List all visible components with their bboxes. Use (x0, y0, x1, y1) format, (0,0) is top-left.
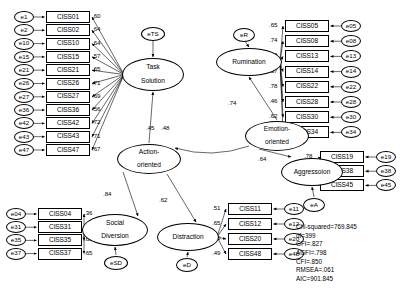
disturbance-arrow-eA (312, 187, 314, 197)
loading-CISS08: .74 (269, 36, 277, 43)
observed-CISS14: CISS14 (285, 66, 329, 78)
fit-stat-line-1: df=399 (296, 232, 357, 241)
loading-CISS26: .71 (92, 79, 100, 86)
observed-CISS11: CISS11 (228, 203, 272, 215)
observed-CISS21: CISS21 (46, 64, 90, 76)
error-e11: e11 (284, 203, 304, 215)
loading-CISS42: .72 (92, 118, 100, 125)
disturbance-eA: eA (303, 198, 325, 212)
error-e28: e28 (341, 96, 361, 108)
latent-aggression: Aggressoion (281, 158, 343, 186)
observed-CISS22: CISS22 (285, 81, 329, 93)
sem-path-diagram: CISS01e1.60CISS02e2.64CISS10e10.64CISS15… (0, 0, 415, 291)
error-e1: e1 (14, 11, 34, 23)
error-e10: e10 (14, 38, 34, 50)
disturbance-eR: eR (233, 28, 255, 42)
observed-CISS28: CISS28 (285, 96, 329, 108)
observed-CISS47: CISS47 (46, 144, 90, 156)
observed-CISS43: CISS43 (46, 131, 90, 143)
loading-CISS47: .67 (92, 145, 100, 152)
path-label-emotion-to-aggression: .64 (258, 155, 266, 162)
loading-CISS10: .64 (92, 39, 100, 46)
loading-CISS15: .57 (92, 52, 100, 59)
error-e14: e14 (341, 66, 361, 78)
error-e19: e19 (376, 151, 396, 163)
observed-CISS12: CISS12 (228, 218, 272, 230)
error-e26: e26 (14, 78, 34, 90)
disturbance-arrow-eSD (115, 247, 116, 255)
loading-CISS48: .49 (212, 249, 220, 256)
observed-CISS05: CISS05 (285, 20, 329, 32)
observed-CISS37: CISS37 (38, 248, 82, 260)
fit-stat-line-2: GFI=.827 (296, 240, 357, 249)
disturbance-eTS: eTS (141, 27, 165, 41)
fit-statistics: Chi-squared=769.845df=399GFI=.827AGFI=.7… (296, 223, 357, 284)
observed-CISS42: CISS42 (46, 117, 90, 129)
loading-CISS43: .71 (92, 132, 100, 139)
observed-CISS36: CISS36 (46, 104, 90, 116)
path-label-action-to-social: .84 (103, 190, 111, 197)
fit-stat-line-5: RMSEA=.061 (296, 266, 357, 275)
path-label-action-to-distraction: .62 (159, 196, 167, 203)
loading-CISS37: .65 (84, 249, 92, 256)
latent-rumination: Rumination (216, 48, 282, 76)
latent-emotion-oriented: Emotion-oriented (245, 121, 309, 151)
loading-CISS36: .56 (92, 105, 100, 112)
path-emotion-to-action (175, 146, 249, 153)
path-label-emotion-to-rumination: .74 (228, 99, 236, 106)
loading-CISS01: .60 (92, 12, 100, 19)
error-e05: e05 (341, 20, 361, 32)
error-e27: e27 (14, 91, 34, 103)
error-e47: e47 (14, 144, 34, 156)
latent-action-oriented: Action-oriented (117, 144, 181, 174)
loading-CISS05: .65 (269, 21, 277, 28)
loading-CISS21: .65 (92, 65, 100, 72)
disturbance-arrow-eD (187, 252, 188, 257)
fit-stat-line-0: Chi-squared=769.845 (296, 223, 357, 232)
observed-CISS15: CISS15 (46, 51, 90, 63)
latent-distraction: Distraction (157, 223, 219, 251)
observed-CISS30: CISS30 (285, 111, 329, 123)
error-e43: e43 (14, 131, 34, 143)
error-e22: e22 (341, 81, 361, 93)
loading-CISS04: .36 (84, 209, 92, 216)
observed-CISS02: CISS02 (46, 24, 90, 36)
disturbance-eSD: eSD (104, 256, 128, 270)
observed-CISS48: CISS48 (228, 248, 272, 260)
error-e15: e15 (14, 51, 34, 63)
observed-CISS26: CISS26 (46, 78, 90, 90)
observed-CISS31: CISS31 (38, 221, 82, 233)
path-action-to-social (123, 172, 138, 216)
latent-task-solution: TaskSolution (122, 58, 184, 91)
observed-CISS27: CISS27 (46, 91, 90, 103)
observed-CISS08: CISS08 (285, 35, 329, 47)
path-action-to-task (149, 92, 153, 143)
latent-social-diversion: SocialDiversion (82, 214, 148, 246)
disturbance-eD: eD (176, 258, 198, 272)
observed-CISS13: CISS13 (285, 50, 329, 62)
fit-stat-line-4: CFI=.850 (296, 258, 357, 267)
error-e37: e37 (6, 248, 26, 260)
error-e04: e04 (6, 208, 26, 220)
loading-CISS28: .46 (269, 97, 277, 104)
observed-CISS20: CISS20 (228, 233, 272, 245)
error-e36: e36 (14, 104, 34, 116)
observed-CISS01: CISS01 (46, 11, 90, 23)
loading-CISS12: .65 (212, 219, 220, 226)
path-action-to-distraction (167, 174, 196, 222)
loading-CISS02: .64 (92, 25, 100, 32)
loading-CISS11: .51 (212, 204, 220, 211)
loading-CISS30: .62 (269, 112, 277, 119)
fit-stat-line-6: AIC=901.845 (296, 275, 357, 284)
observed-CISS10: CISS10 (46, 38, 90, 50)
loading-CISS22: .78 (269, 82, 277, 89)
fit-stat-line-3: AGFI=.798 (296, 249, 357, 258)
path-label-action-to-task-a: .45 (146, 124, 154, 131)
observed-CISS35: CISS35 (38, 234, 82, 246)
observed-CISS04: CISS04 (38, 208, 82, 220)
loading-CISS27: .69 (92, 92, 100, 99)
path-label-action-to-task-b: .48 (161, 124, 169, 131)
